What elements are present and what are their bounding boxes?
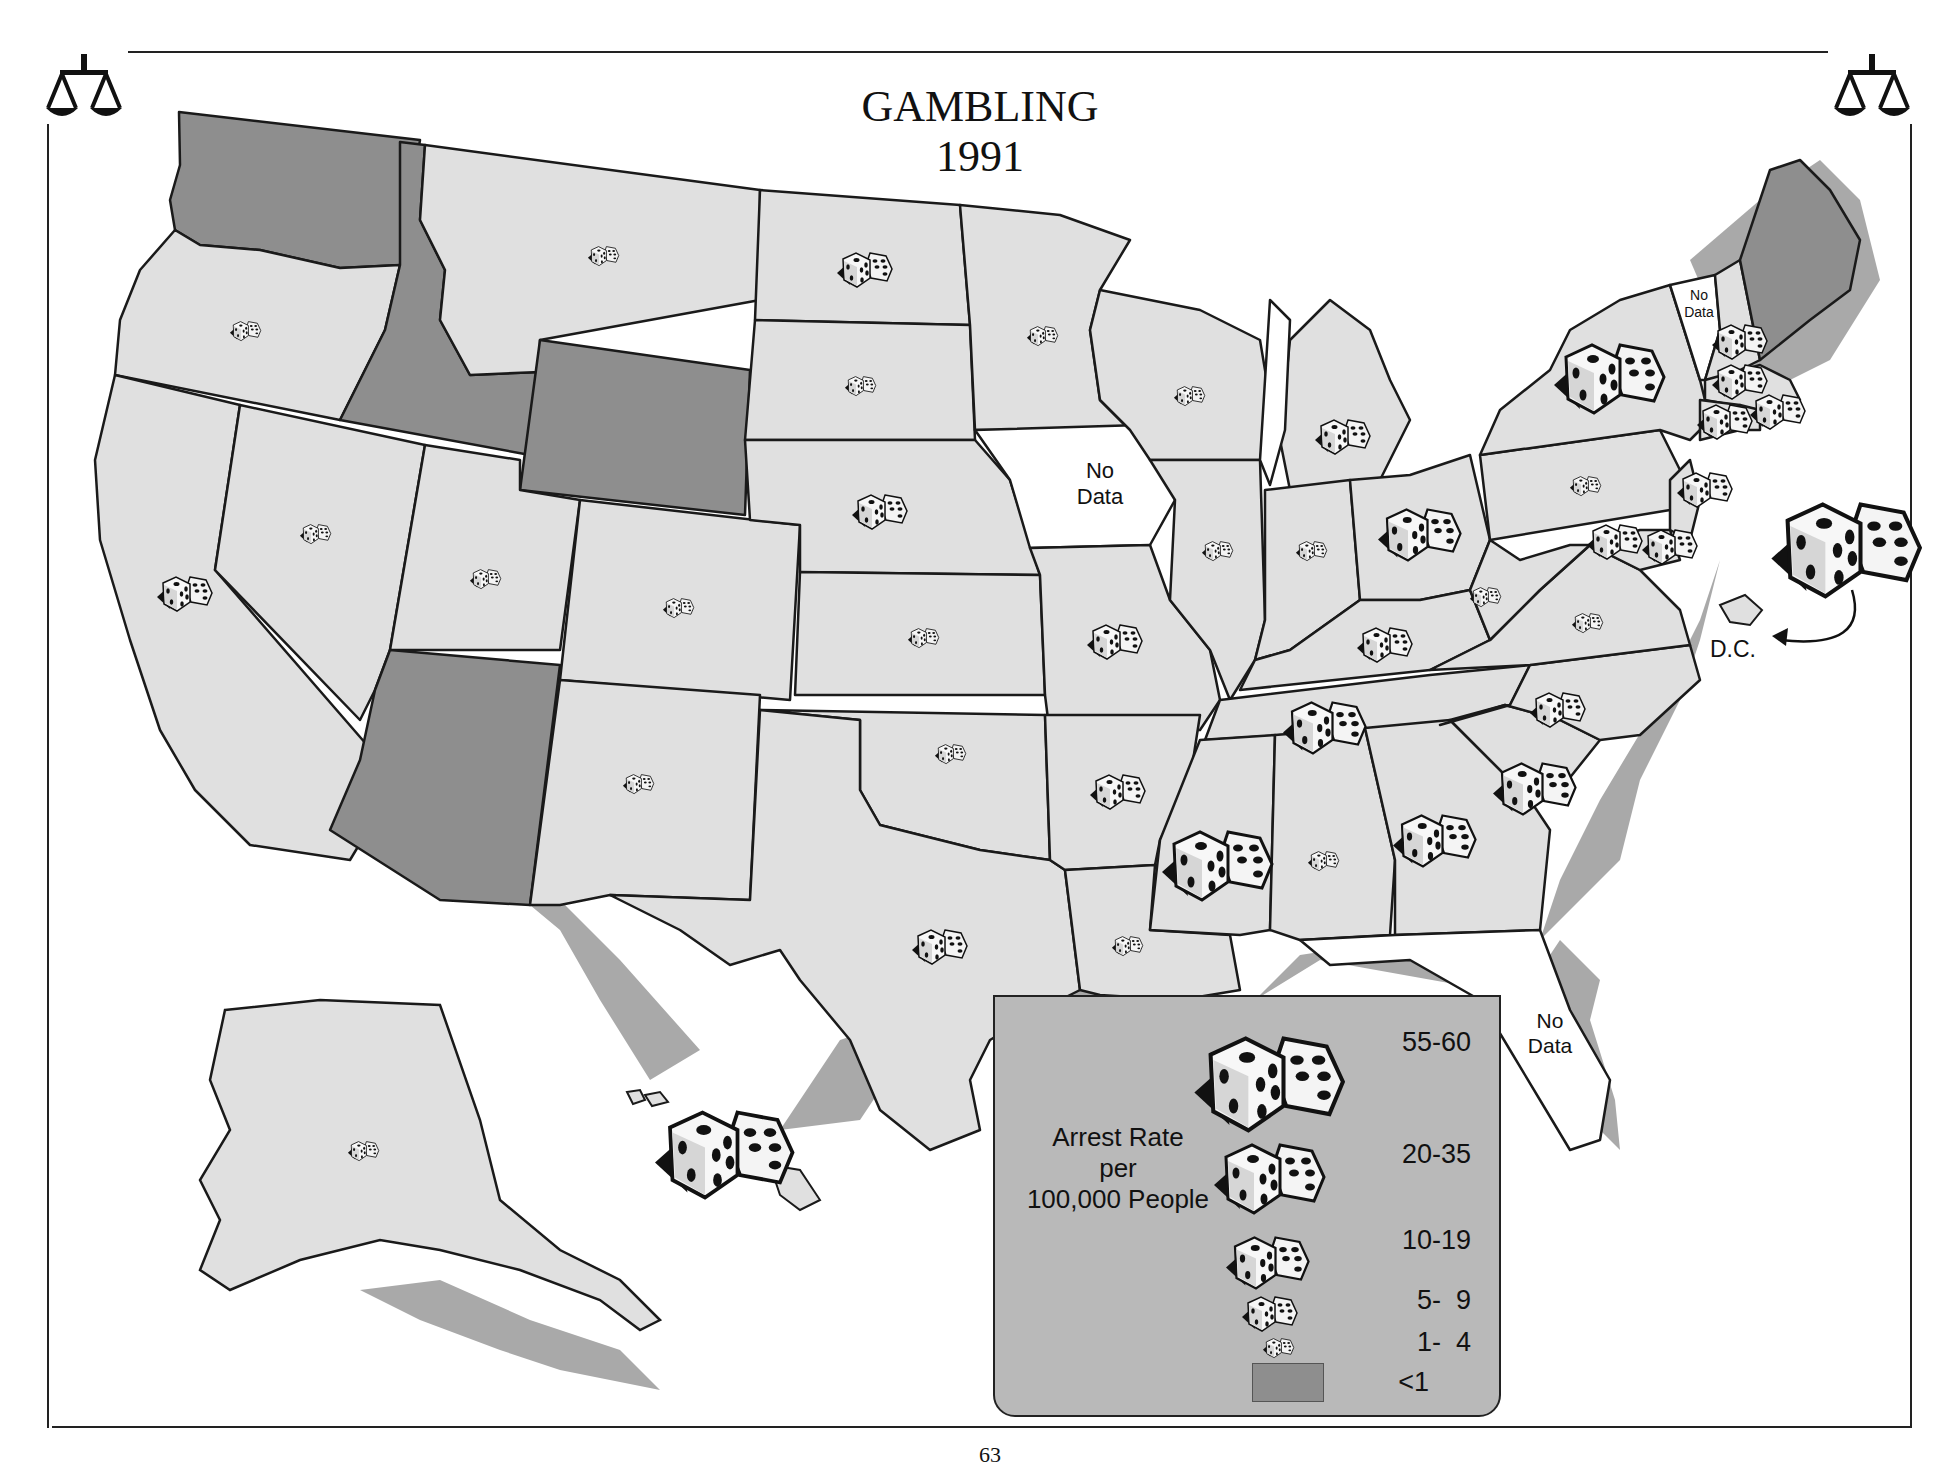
- dice-pair-icon-m: [1226, 1238, 1309, 1289]
- no-data-line2: Data: [1040, 484, 1160, 510]
- no-data-line1: No: [1040, 458, 1160, 484]
- dice-pair-icon-xl: [1194, 1039, 1343, 1131]
- dice-pair-icon-l: [1214, 1145, 1324, 1213]
- dc-inset: [1720, 595, 1762, 625]
- legend-label-20-35: 20-35: [1402, 1139, 1471, 1170]
- dc-label: D.C.: [1710, 636, 1756, 663]
- legend-label-1-4: 1- 4: [1417, 1327, 1471, 1358]
- dice-pair-icon-hi: [655, 1113, 793, 1198]
- page-number: 63: [940, 1442, 1040, 1462]
- legend-label-55-60: 55-60: [1402, 1027, 1471, 1058]
- dice-pair-icon-s: [1242, 1297, 1297, 1331]
- state-wy: [520, 340, 750, 515]
- dc-arrow: [1780, 590, 1855, 641]
- state-co: [560, 500, 800, 700]
- state-mi: [1280, 300, 1410, 490]
- no-data-line2: Data: [1676, 304, 1722, 321]
- no-data-line2: Data: [1510, 1033, 1590, 1058]
- legend-swatch-lt1: [1252, 1363, 1324, 1402]
- no-data-label-florida: No Data: [1510, 1008, 1590, 1058]
- legend-panel: Arrest Rate per 100,000 People 55-60 20-…: [993, 995, 1501, 1417]
- no-data-label-iowa: No Data: [1040, 458, 1160, 511]
- dice-pair-icon-xs: [1263, 1339, 1294, 1358]
- state-nm: [530, 680, 760, 905]
- no-data-line1: No: [1676, 287, 1722, 304]
- dice-pair-icon-dc: [1771, 505, 1920, 597]
- state-ak: [200, 1000, 660, 1330]
- state-mt: [420, 145, 760, 375]
- no-data-label-vermont: No Data: [1676, 287, 1722, 321]
- us-map: [0, 0, 1953, 1462]
- no-data-line1: No: [1510, 1008, 1590, 1033]
- legend-label-5-9: 5- 9: [1417, 1285, 1471, 1316]
- legend-label-lt1: <1: [1398, 1367, 1429, 1398]
- legend-label-10-19: 10-19: [1402, 1225, 1471, 1256]
